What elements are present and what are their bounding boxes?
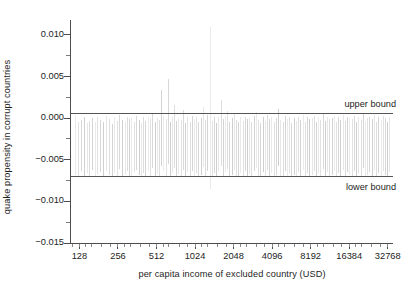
data-spike [305,122,306,177]
x-tick-mark-minor [349,244,350,247]
data-spike [343,115,344,170]
data-spike [269,119,270,176]
data-spike [122,120,123,177]
data-spike [185,123,186,177]
data-spike [114,117,115,173]
data-spike [318,117,319,173]
x-axis-label: per capita income of excluded country (U… [71,269,393,279]
x-tick-mark-minor [140,244,141,247]
data-spike [320,120,321,176]
data-spike [207,115,208,172]
data-spike [109,119,110,175]
data-spike [374,115,375,170]
data-spike [181,120,182,177]
data-spike [260,123,261,177]
data-spike [243,121,244,177]
upper-bound-label: upper bound [344,99,396,109]
data-spike [205,120,206,177]
x-tick-mark-minor [79,244,80,247]
data-spike [356,122,357,178]
data-spike [378,117,379,173]
data-spike [309,119,310,176]
y-tick-mark-minor [66,138,70,139]
data-spike [223,119,224,176]
y-tick-mark [64,159,70,160]
data-spike [170,122,171,177]
y-tick-mark-minor [66,55,70,56]
data-spike [283,122,284,178]
data-spike [117,121,118,176]
x-tick-mark-minor [323,244,324,247]
data-spike [141,123,142,177]
data-spike [285,116,286,172]
x-tick-mark-minor [168,244,169,247]
x-tick-mark-minor [246,244,247,247]
data-spike [389,117,390,173]
data-spike [78,122,79,177]
data-spike [89,121,90,176]
data-spike [210,27,211,189]
x-tick-label: 2048 [223,251,244,261]
data-spike [163,116,164,172]
data-spike [148,117,149,171]
y-tick-mark [64,34,70,35]
data-spike [325,121,326,177]
data-spike [192,116,193,171]
x-tick-mark-minor [201,244,202,247]
data-spike [100,120,101,172]
data-spike [129,119,130,176]
y-tick-mark [64,118,70,119]
x-tick-mark-minor [264,244,265,247]
data-spike [190,122,191,176]
data-spike [221,100,222,166]
x-tick-mark-minor [117,244,118,247]
data-spike [168,79,169,164]
y-tick-mark-minor [66,222,70,223]
y-tick-label: 0.000 [41,113,64,122]
spike-series [71,20,393,243]
x-tick-mark-minor [124,244,125,247]
data-spike [251,122,252,178]
x-tick-mark-minor [233,244,234,247]
data-spike [161,90,162,167]
data-spike [280,120,281,176]
x-tick-label: 256 [110,251,126,261]
data-spike [216,123,217,177]
data-spike [289,117,290,174]
x-tick-mark-minor [333,244,334,247]
data-spike [134,122,135,173]
x-tick-mark-minor [163,244,164,247]
data-spike [385,118,386,175]
plot-area [71,20,393,243]
data-spike [87,123,88,173]
x-tick-mark-minor [341,244,342,247]
data-spike [106,116,107,171]
x-tick-mark-minor [303,244,304,247]
data-spike [103,122,104,178]
x-tick-mark-minor [387,244,388,247]
data-spike [291,123,292,177]
data-spike [143,117,144,173]
x-tick-mark-minor [187,244,188,247]
data-spike [323,114,324,169]
y-tick-label: −0.010 [35,196,64,205]
data-spike [159,120,160,176]
data-spike [296,121,297,176]
data-spike [354,116,355,172]
x-tick-mark-minor [72,244,73,247]
data-spike [271,117,272,174]
y-tick-mark [64,201,70,202]
x-tick-label: 16384 [336,251,362,261]
y-tick-mark-minor [66,180,70,181]
x-tick-mark-minor [91,244,92,247]
data-spike [145,121,146,176]
x-tick-mark-minor [317,244,318,247]
data-spike [229,122,230,178]
data-spike [276,118,277,175]
data-spike [265,121,266,176]
data-spike [227,111,228,169]
data-spike [363,114,364,168]
x-tick-mark-minor [85,244,86,247]
data-spike [347,117,348,173]
data-spike [245,117,246,172]
